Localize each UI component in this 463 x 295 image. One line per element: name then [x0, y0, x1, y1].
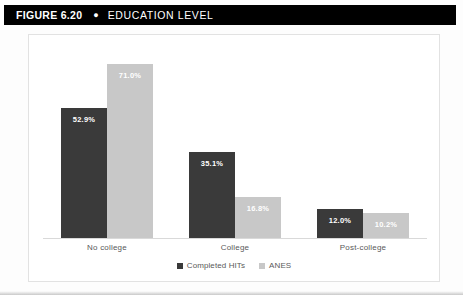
bar-rect [61, 108, 107, 238]
bar-value-label: 71.0% [107, 71, 153, 80]
bar-value-label: 52.9% [61, 115, 107, 124]
chart-legend: Completed HITsANES [29, 261, 439, 270]
bar-group: 35.1%16.8% [171, 43, 299, 238]
legend-label: ANES [269, 261, 291, 270]
legend-swatch-icon [259, 263, 265, 269]
x-axis-tick-label: Post-college [299, 243, 427, 252]
legend-label: Completed HITs [187, 261, 245, 270]
bar-value-label: 16.8% [235, 204, 281, 213]
figure-number-label: FIGURE 6.20 [16, 9, 82, 21]
x-axis-tick-labels: No collegeCollegePost-college [43, 243, 427, 252]
legend-item[interactable]: ANES [259, 261, 291, 270]
bar-value-label: 10.2% [363, 220, 409, 229]
figure-header-bar: FIGURE 6.20 ● EDUCATION LEVEL [4, 5, 456, 25]
figure-container: FIGURE 6.20 ● EDUCATION LEVEL 52.9%71.0%… [0, 0, 463, 295]
bar-value-label: 12.0% [317, 216, 363, 225]
bar-value-label: 35.1% [189, 159, 235, 168]
bar-rect [107, 64, 153, 238]
x-axis-tick-label: No college [43, 243, 171, 252]
bullet-separator-icon: ● [93, 11, 98, 20]
figure-title: EDUCATION LEVEL [108, 9, 214, 21]
page-edge-shadow [0, 291, 463, 295]
x-axis-line [43, 238, 427, 239]
plot-area: 52.9%71.0%35.1%16.8%12.0%10.2% [43, 43, 427, 239]
x-axis-tick-label: College [171, 243, 299, 252]
legend-swatch-icon [177, 263, 183, 269]
legend-item[interactable]: Completed HITs [177, 261, 245, 270]
bar-group: 52.9%71.0% [43, 43, 171, 238]
chart-frame: 52.9%71.0%35.1%16.8%12.0%10.2% No colleg… [28, 34, 440, 282]
bar-groups: 52.9%71.0%35.1%16.8%12.0%10.2% [43, 43, 427, 238]
bar-group: 12.0%10.2% [299, 43, 427, 238]
